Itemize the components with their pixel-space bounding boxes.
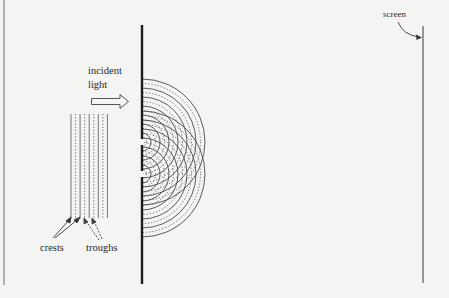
incident-arrow-icon — [92, 95, 129, 109]
crests-arrows — [53, 217, 80, 238]
incident-label-line2: light — [88, 79, 107, 90]
screen-pointer-arrow — [398, 22, 422, 40]
screen-label: screen — [383, 9, 406, 19]
crests-label: crests — [40, 242, 64, 253]
double-slit-diagram: incident light crests troughs screen — [0, 0, 449, 298]
incident-wavefronts — [71, 114, 107, 218]
incident-label-line1: incident — [88, 65, 122, 76]
troughs-arrows — [84, 218, 102, 240]
troughs-label: troughs — [86, 242, 118, 253]
